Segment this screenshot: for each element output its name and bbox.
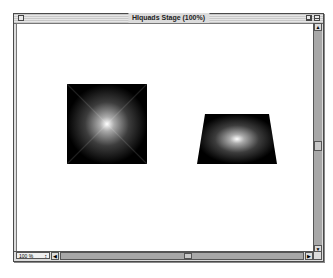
horizontal-scrollbar[interactable] — [60, 252, 304, 260]
zoom-value: 100 % — [19, 253, 33, 259]
window-title: HIquads Stage (100%) — [128, 13, 209, 23]
vertical-scroll-thumb[interactable] — [314, 141, 322, 151]
zoom-stepper-icon[interactable]: ↕ — [45, 253, 48, 259]
scroll-left-arrow-icon[interactable]: ◀ — [51, 252, 59, 260]
zoom-field[interactable]: 100 % ↕ — [16, 252, 50, 259]
collapse-box-icon[interactable] — [314, 15, 320, 21]
square-quad[interactable] — [67, 84, 147, 164]
bottom-bar: 100 % ↕ ◀ ▶ — [14, 251, 313, 260]
scroll-up-arrow-icon[interactable]: ▲ — [314, 23, 322, 31]
scroll-right-arrow-icon[interactable]: ▶ — [305, 252, 313, 260]
zoom-box-icon[interactable] — [306, 15, 312, 21]
trapezoid-quad[interactable] — [197, 114, 277, 164]
vertical-scrollbar[interactable]: ▲ ▼ — [313, 23, 322, 253]
stage-canvas[interactable] — [16, 23, 314, 253]
resize-grow-box-icon[interactable] — [313, 251, 322, 260]
stage-window: HIquads Stage (100%) ▲ ▼ 100 % ↕ ◀ ▶ — [13, 13, 324, 262]
square-diagonals — [67, 84, 147, 164]
horizontal-scroll-thumb[interactable] — [184, 253, 192, 259]
close-box-icon[interactable] — [18, 15, 24, 21]
trapezoid-gradient — [197, 114, 277, 164]
